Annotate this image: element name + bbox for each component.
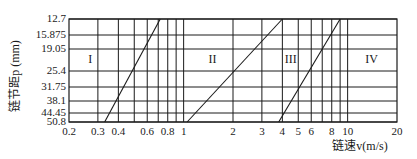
- y-axis-title: 链节距p (mm): [5, 40, 23, 112]
- x-tick-label: 6: [308, 125, 314, 137]
- x-tick-label: 3: [259, 125, 265, 137]
- x-tick-label: 2: [230, 125, 236, 137]
- x-tick-label: 4: [280, 125, 286, 137]
- y-tick-label: 50.8: [0, 116, 66, 127]
- x-tick-label: 1: [181, 125, 187, 137]
- region-label: IV: [365, 52, 378, 67]
- x-axis-title: 链速v(m/s): [332, 136, 387, 154]
- y-tick-label: 15.875: [0, 29, 66, 40]
- region-label: I: [88, 52, 92, 67]
- x-tick-label: 5: [296, 125, 302, 137]
- x-tick-label: 20: [392, 125, 403, 137]
- region-label: II: [209, 52, 217, 67]
- x-tick-label: 0.3: [91, 125, 105, 137]
- y-tick-label: 12.7: [0, 13, 66, 24]
- x-tick-label: 0.4: [111, 125, 125, 137]
- x-tick-label: 0.6: [140, 125, 154, 137]
- x-tick-label: 0.8: [161, 125, 175, 137]
- region-label: III: [285, 52, 297, 67]
- x-tick-label: 0.2: [62, 125, 76, 137]
